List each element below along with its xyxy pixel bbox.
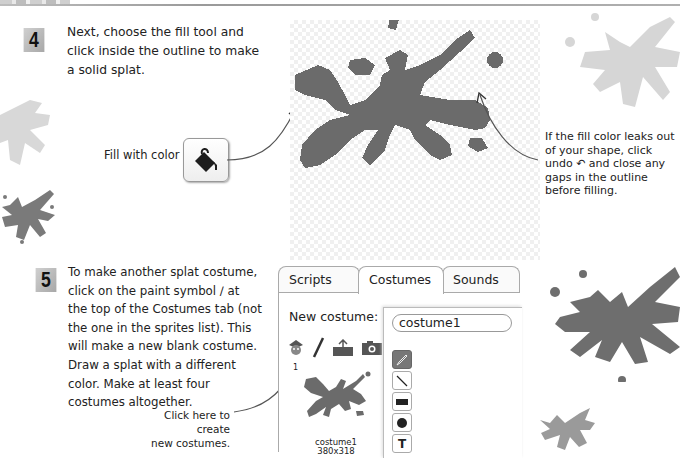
brush-icon: [395, 353, 409, 367]
tab-sounds[interactable]: Sounds: [442, 266, 520, 292]
tab-costumes[interactable]: Costumes: [358, 266, 444, 294]
tool-rectangle[interactable]: [392, 392, 412, 411]
undo-callout-arrow: [470, 85, 540, 165]
costume-name-input[interactable]: [392, 314, 512, 332]
costume-index: 1: [293, 363, 298, 372]
paint-brush-icon[interactable]: [311, 337, 325, 359]
new-costume-buttons: [287, 337, 383, 359]
fill-callout-arrow: [225, 100, 300, 165]
header-rule: [0, 4, 680, 6]
tool-line[interactable]: [392, 371, 412, 390]
costumes-tab-content: New costume: 1 costume1 380x318: [278, 292, 520, 452]
splat-decoration-left-light: [0, 95, 55, 180]
rectangle-icon: [395, 395, 409, 409]
step-4-instructions: Next, choose the fill tool and click ins…: [67, 23, 267, 80]
upload-costume-icon[interactable]: [331, 339, 355, 357]
tool-brush[interactable]: [392, 350, 412, 369]
fill-tool-button[interactable]: [183, 138, 229, 182]
splat-decoration-right-dark: [540, 262, 680, 382]
costume-size: 380x318: [301, 446, 371, 456]
tool-text[interactable]: T: [392, 434, 412, 453]
new-costume-caption: Click here to create new costumes.: [130, 408, 230, 450]
step-number-5: 5: [36, 268, 57, 292]
ellipse-icon: [395, 416, 409, 430]
camera-icon[interactable]: [361, 340, 383, 356]
scratch-costumes-panel: Scripts Costumes Sounds New costume: 1: [278, 266, 520, 452]
choose-sprite-icon[interactable]: [287, 339, 305, 357]
tool-ellipse[interactable]: [392, 413, 412, 432]
splat-decoration-left-dark: [0, 185, 60, 245]
undo-tip: If the fill color leaks out of your shap…: [545, 130, 680, 198]
step-number-4: 4: [24, 28, 45, 52]
costume-thumbnail[interactable]: [301, 369, 376, 429]
fill-with-color-label: Fill with color: [104, 148, 179, 163]
new-costume-label: New costume:: [289, 309, 378, 324]
paint-bucket-icon: [191, 145, 221, 175]
paint-editor-pane: T: [383, 307, 522, 458]
line-icon: [395, 374, 409, 388]
tab-scripts[interactable]: Scripts: [278, 266, 360, 292]
splat-decoration-bottom-right: [535, 405, 600, 452]
splat-decoration-top-right: [565, 12, 680, 112]
text-tool-icon: T: [398, 437, 406, 451]
